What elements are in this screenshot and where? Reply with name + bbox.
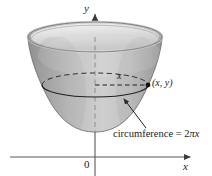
y-axis-arrowhead: [92, 14, 99, 21]
y-axis-label: y: [84, 3, 89, 14]
circumference-variable: x: [195, 128, 200, 139]
radius-label: x: [117, 71, 121, 81]
point-marker: [146, 83, 151, 88]
x-axis-label: x: [183, 161, 188, 172]
circumference-text: circumference = 2: [113, 128, 189, 139]
paraboloid-figure: y x 0 x (x, y) circumference = 2πx: [0, 0, 212, 176]
circumference-label: circumference = 2πx: [113, 129, 199, 140]
figure-canvas: [0, 0, 212, 176]
origin-label: 0: [84, 159, 90, 170]
point-coordinates-label: (x, y): [152, 78, 173, 88]
